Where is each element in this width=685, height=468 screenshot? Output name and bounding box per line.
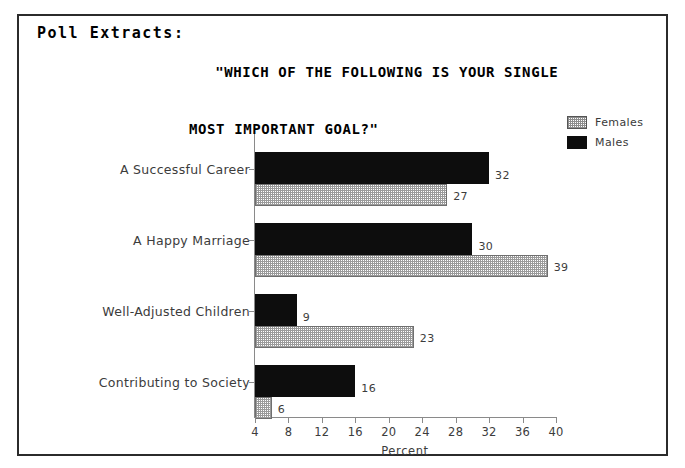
bar-value-females-3: 6 — [278, 403, 285, 416]
x-tick-label-5: 24 — [415, 425, 430, 439]
category-label-1: A Happy Marriage — [20, 233, 250, 248]
bar-females-3[interactable] — [255, 397, 272, 419]
x-tick-label-2: 12 — [314, 425, 329, 439]
category-label-3: Contributing to Society — [20, 375, 250, 390]
bar-males-2[interactable] — [255, 294, 297, 326]
bar-value-females-1: 39 — [554, 261, 569, 274]
bar-value-males-0: 32 — [495, 169, 510, 182]
x-tick-4 — [389, 417, 390, 423]
x-tick-6 — [456, 417, 457, 423]
x-tick-label-0: 4 — [251, 425, 259, 439]
x-tick-3 — [355, 417, 356, 423]
bar-males-0[interactable] — [255, 152, 489, 184]
x-tick-0 — [255, 417, 256, 423]
poll-extracts-panel: Poll Extracts: "WHICH OF THE FOLLOWING I… — [17, 14, 668, 456]
bar-value-males-3: 16 — [361, 382, 376, 395]
bar-females-1[interactable] — [255, 255, 548, 277]
x-axis-line — [254, 417, 556, 418]
x-tick-1 — [288, 417, 289, 423]
bar-value-males-2: 9 — [303, 311, 310, 324]
x-tick-2 — [322, 417, 323, 423]
x-tick-label-9: 40 — [548, 425, 563, 439]
x-tick-7 — [489, 417, 490, 423]
category-label-2: Well-Adjusted Children — [20, 304, 250, 319]
category-label-0: A Successful Career — [20, 162, 250, 177]
x-tick-5 — [422, 417, 423, 423]
x-tick-label-3: 16 — [348, 425, 363, 439]
bar-chart-plot-area: A Successful Career 32 27 A Happy Marria… — [19, 16, 670, 458]
bar-males-3[interactable] — [255, 365, 355, 397]
x-tick-8 — [523, 417, 524, 423]
bar-value-males-1: 30 — [478, 240, 493, 253]
x-tick-label-7: 32 — [481, 425, 496, 439]
x-axis-title: Percent — [254, 444, 556, 458]
bar-value-females-0: 27 — [453, 190, 468, 203]
bar-females-0[interactable] — [255, 184, 447, 206]
x-tick-9 — [556, 417, 557, 423]
bar-value-females-2: 23 — [420, 332, 435, 345]
x-tick-label-6: 28 — [448, 425, 463, 439]
x-tick-label-4: 20 — [381, 425, 396, 439]
x-tick-label-1: 8 — [285, 425, 293, 439]
bar-females-2[interactable] — [255, 326, 414, 348]
x-tick-label-8: 36 — [515, 425, 530, 439]
bar-males-1[interactable] — [255, 223, 472, 255]
